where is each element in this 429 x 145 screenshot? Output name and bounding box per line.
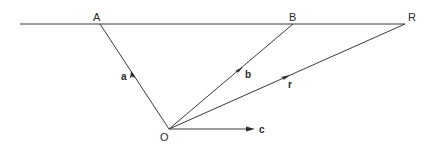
point-label-B: B xyxy=(289,11,296,23)
point-label-A: A xyxy=(93,11,101,23)
vector-label-r: r xyxy=(288,79,292,90)
vector-b-arrowhead xyxy=(235,67,243,74)
point-label-R: R xyxy=(408,11,416,23)
vector-label-b: b xyxy=(245,69,251,80)
point-label-O: O xyxy=(160,131,169,143)
vector-c-arrowhead xyxy=(246,127,255,132)
vector-label-a: a xyxy=(121,71,127,82)
vector-b-line xyxy=(169,24,293,129)
vector-label-c: c xyxy=(259,124,265,135)
vector-diagram: A B R O a b r c xyxy=(0,0,429,145)
